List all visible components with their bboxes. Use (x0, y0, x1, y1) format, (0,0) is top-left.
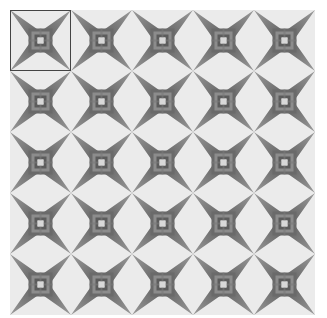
pattern-tile (10, 193, 71, 254)
center-highlight (99, 282, 105, 288)
pattern-tile (132, 193, 193, 254)
pattern-tile (132, 132, 193, 193)
pattern-tile (254, 71, 315, 132)
pattern-tile (71, 10, 132, 71)
pattern-tile (10, 10, 71, 71)
center-highlight (99, 38, 105, 44)
pattern-tile (254, 193, 315, 254)
center-highlight (99, 99, 105, 105)
pattern-tile (193, 10, 254, 71)
center-highlight (38, 160, 44, 166)
pattern-tile (254, 10, 315, 71)
center-highlight (38, 38, 44, 44)
pattern-tile (132, 10, 193, 71)
pattern-tile (10, 71, 71, 132)
pattern-tile (193, 193, 254, 254)
pattern-tile (132, 254, 193, 315)
pattern-tile (71, 132, 132, 193)
center-highlight (38, 221, 44, 227)
center-highlight (160, 221, 166, 227)
pattern-tile (193, 71, 254, 132)
pattern-tile (193, 254, 254, 315)
center-highlight (282, 99, 288, 105)
center-highlight (221, 282, 227, 288)
center-highlight (282, 160, 288, 166)
center-highlight (160, 38, 166, 44)
pattern-tile (71, 193, 132, 254)
center-highlight (221, 99, 227, 105)
pattern-tile (193, 132, 254, 193)
pattern-tile (10, 254, 71, 315)
center-highlight (99, 160, 105, 166)
pattern-tile (10, 132, 71, 193)
center-highlight (160, 99, 166, 105)
center-highlight (282, 38, 288, 44)
center-highlight (38, 282, 44, 288)
pattern-tile (71, 71, 132, 132)
center-highlight (221, 221, 227, 227)
center-highlight (38, 99, 44, 105)
center-highlight (221, 38, 227, 44)
pattern-tile (254, 132, 315, 193)
center-highlight (99, 221, 105, 227)
center-highlight (282, 282, 288, 288)
center-highlight (282, 221, 288, 227)
pattern-tile (254, 254, 315, 315)
center-highlight (160, 282, 166, 288)
pattern-tile (71, 254, 132, 315)
center-highlight (221, 160, 227, 166)
tiled-star-pattern (10, 10, 315, 315)
pattern-tile (132, 71, 193, 132)
center-highlight (160, 160, 166, 166)
